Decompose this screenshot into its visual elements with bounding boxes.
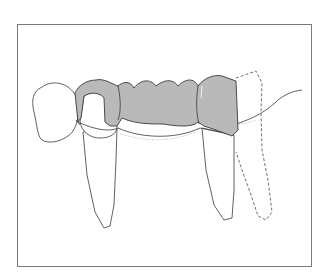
missing-tooth-dashed-outline (236, 71, 272, 220)
adjacent-crown-left (33, 83, 80, 142)
abutment-tooth-distal (202, 128, 234, 220)
dental-bridge-illustration (0, 0, 330, 280)
